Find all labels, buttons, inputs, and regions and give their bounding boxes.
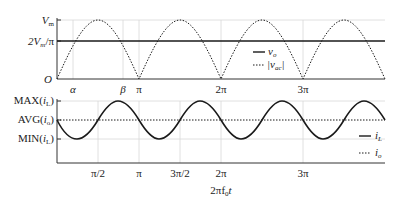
x-label-pi: π xyxy=(136,83,142,95)
y-label-min-il: MIN(iL) xyxy=(18,132,54,146)
y-label-origin: O xyxy=(44,73,52,85)
top-plot: Vm 2Vm/π O α β π 2π 3π vo |vac| xyxy=(28,14,385,95)
y-label-2vm-pi: 2Vm/π xyxy=(28,35,54,49)
legend-vo-label: vo xyxy=(268,45,277,59)
legend-il-label: iL xyxy=(375,129,382,143)
x-label-alpha: α xyxy=(70,83,76,95)
y-label-vm: Vm xyxy=(42,14,55,28)
x-label-3pi: 3π xyxy=(297,83,309,95)
x-label-pi: π xyxy=(136,167,142,179)
x-label-2pi: 2π xyxy=(215,167,227,179)
legend-vac-label: |vac| xyxy=(267,58,285,72)
top-grid xyxy=(57,20,385,79)
y-label-max-il: MAX(iL) xyxy=(14,94,55,108)
bottom-legend: iL io xyxy=(359,129,382,160)
rectifier-waveform-diagram: Vm 2Vm/π O α β π 2π 3π vo |vac| xyxy=(0,0,401,203)
x-label-3pi: 3π xyxy=(297,167,309,179)
top-legend: vo |vac| xyxy=(253,45,285,72)
x-label-3pi-half: 3π/2 xyxy=(170,167,190,179)
x-label-pi-half: π/2 xyxy=(91,167,105,179)
legend-io-label: io xyxy=(375,146,382,160)
x-label-beta: β xyxy=(119,83,126,95)
y-label-avg-io: AVG(io) xyxy=(18,113,55,127)
x-axis-title: 2πf0t xyxy=(210,184,232,198)
x-label-2pi: 2π xyxy=(215,83,227,95)
bottom-plot: MAX(iL) AVG(io) MIN(iL) π/2 π 3π/2 2π 3π… xyxy=(14,94,385,198)
